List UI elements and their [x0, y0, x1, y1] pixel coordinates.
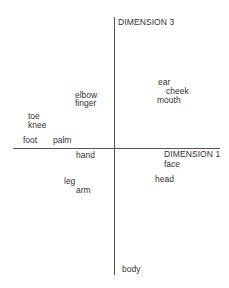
point-label-leg: leg: [64, 176, 75, 186]
point-label-finger: finger: [75, 98, 96, 108]
point-label-head: head: [155, 174, 174, 184]
mds-scatter-plot: DIMENSION 3 DIMENSION 1 earcheekmouthelb…: [0, 0, 229, 288]
dimension-3-axis: [114, 17, 115, 275]
dimension-3-label: DIMENSION 3: [118, 17, 174, 27]
point-label-arm: arm: [76, 185, 91, 195]
point-label-body: body: [122, 264, 140, 274]
point-label-hand: hand: [76, 150, 95, 160]
point-label-knee: knee: [28, 120, 46, 130]
dimension-1-label: DIMENSION 1: [164, 149, 220, 159]
point-label-face: face: [164, 159, 180, 169]
point-label-palm: palm: [53, 135, 71, 145]
point-label-foot: foot: [23, 135, 37, 145]
point-label-mouth: mouth: [157, 95, 181, 105]
